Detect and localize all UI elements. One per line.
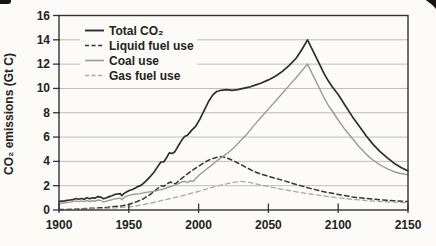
legend-label: Liquid fuel use — [109, 39, 194, 53]
y-tick-label-4: 4 — [43, 154, 50, 168]
legend-label: Total CO₂ — [109, 24, 163, 38]
x-tick-label-2050: 2050 — [255, 218, 282, 232]
x-tick-labels: 190019502000205021002150 — [46, 218, 422, 232]
x-tick-label-2000: 2000 — [185, 218, 212, 232]
scan-artifact-top-left — [0, 0, 11, 4]
y-tick-label-8: 8 — [43, 106, 50, 120]
y-tick-label-2: 2 — [43, 179, 50, 193]
legend-label: Gas fuel use — [109, 69, 181, 83]
y-axis-title: CO₂ emissions (Gt C) — [2, 53, 16, 175]
y-tick-label-10: 10 — [37, 81, 51, 95]
y-tick-labels: 0246810121416 — [37, 9, 51, 218]
y-tick-label-14: 14 — [37, 33, 51, 47]
y-tick-label-6: 6 — [43, 130, 50, 144]
x-tick-label-2150: 2150 — [395, 218, 422, 232]
x-tick-label-1900: 1900 — [46, 218, 73, 232]
legend: Total CO₂Liquid fuel useCoal useGas fuel… — [80, 21, 197, 84]
chart-svg: 190019502000205021002150 0246810121416 C… — [0, 0, 436, 246]
y-tick-label-12: 12 — [37, 57, 51, 71]
legend-label: Coal use — [109, 54, 159, 68]
x-tick-label-2100: 2100 — [325, 218, 352, 232]
y-tick-label-0: 0 — [43, 203, 50, 217]
y-tick-label-16: 16 — [37, 9, 51, 23]
x-tick-label-1950: 1950 — [115, 218, 142, 232]
co2-emissions-figure: 190019502000205021002150 0246810121416 C… — [0, 0, 436, 246]
